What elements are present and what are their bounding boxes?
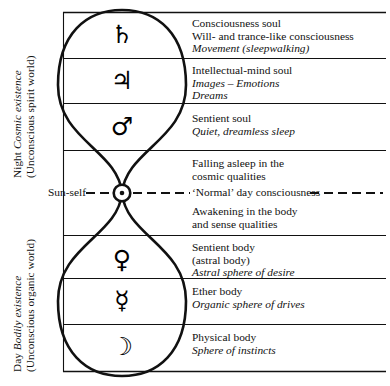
mars-glyph: ♂	[102, 114, 142, 139]
row-line: Sentient soul	[192, 112, 390, 125]
normal-day-consciousness-label: ‘Normal’ day consciousness	[192, 186, 320, 198]
row-text-sentient-soul: Sentient soul Quiet, dreamless sleep	[192, 112, 390, 137]
row-italic-line: Dreams	[192, 89, 390, 102]
side-label-night-line2: (Unconscious spirit world)	[24, 55, 37, 178]
row-line: Intellectual-mind soul	[192, 64, 390, 77]
row-line: Ether body	[192, 285, 390, 298]
row-line: Awakening in the body	[192, 205, 390, 218]
row-line: Will- and trance-like consciousness	[192, 30, 390, 43]
side-label-night: Night Cosmic existence (Unconscious spir…	[11, 55, 37, 178]
row-text-consciousness-soul: Consciousness soul Will- and trance-like…	[192, 17, 390, 55]
sun-self-label: Sun-self	[48, 186, 86, 198]
row-line: (astral body)	[192, 254, 390, 267]
side-label-day-emphasis: Bodily existence	[11, 276, 23, 351]
venus-glyph: ♀	[102, 247, 142, 272]
row-line: Physical body	[192, 331, 390, 344]
row-line: Consciousness soul	[192, 17, 390, 30]
row-italic-line: Quiet, dreamless sleep	[192, 125, 390, 138]
jupiter-glyph: ♃	[102, 68, 142, 93]
side-label-night-emphasis: Cosmic existence	[11, 70, 23, 149]
row-italic-line: Movement (sleepwalking)	[192, 42, 390, 55]
side-label-day-lead: Day	[11, 350, 23, 372]
side-label-night-line1: Night Cosmic existence	[11, 55, 24, 178]
side-label-day: Day Bodily existence (Unconscious organi…	[11, 239, 37, 372]
row-italic-line: Astral sphere of desire	[192, 266, 390, 279]
moon-glyph: ☽	[102, 334, 142, 359]
row-line: cosmic qualities	[192, 170, 390, 183]
row-text-sentient-body: Sentient body (astral body) Astral spher…	[192, 241, 390, 279]
row-line: and sense qualities	[192, 218, 390, 231]
row-text-falling-asleep: Falling asleep in the cosmic qualities	[192, 157, 390, 182]
row-text-ether-body: Ether body Organic sphere of drives	[192, 285, 390, 310]
row-italic-line: Organic sphere of drives	[192, 298, 390, 311]
side-label-day-line1: Day Bodily existence	[11, 239, 24, 372]
row-text-physical-body: Physical body Sphere of instincts	[192, 331, 390, 356]
sun-self-node-dot	[120, 191, 125, 196]
row-line: Sentient body	[192, 241, 390, 254]
side-label-day-line2: (Unconscious organic world)	[24, 239, 37, 372]
row-text-intellectual-mind-soul: Intellectual-mind soul Images – Emotions…	[192, 64, 390, 102]
row-italic-line: Sphere of instincts	[192, 344, 390, 357]
mercury-glyph: ☿	[102, 288, 142, 313]
saturn-glyph: ♄	[102, 22, 142, 47]
row-italic-line: Images – Emotions	[192, 77, 390, 90]
row-line: Falling asleep in the	[192, 157, 390, 170]
row-text-awakening: Awakening in the body and sense qualitie…	[192, 205, 390, 230]
side-label-night-lead: Night	[11, 149, 23, 178]
